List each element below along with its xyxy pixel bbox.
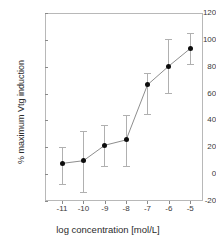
y-tick-label: 0 (192, 170, 216, 178)
x-axis-title: log concentration [mol/L] (0, 224, 216, 235)
x-tick-mark (105, 201, 106, 204)
x-tick-label: -11 (51, 205, 73, 213)
y-tick-label: 60 (192, 90, 216, 98)
x-tick-label: -7 (136, 205, 158, 213)
y-tick-label: 40 (192, 116, 216, 124)
x-tick-mark (190, 201, 191, 204)
x-tick-mark (83, 201, 84, 204)
x-tick-label: -8 (115, 205, 137, 213)
x-tick-label: -9 (94, 205, 116, 213)
y-tick-mark (45, 40, 48, 41)
chart-figure: % maximum Vtg induction 120100806040200-… (0, 0, 216, 251)
x-tick-mark (126, 201, 127, 204)
y-tick-label: 80 (192, 63, 216, 71)
y-tick-label: 20 (192, 143, 216, 151)
y-tick-mark (45, 201, 48, 202)
x-tick-label: -5 (179, 205, 201, 213)
y-tick-mark (45, 147, 48, 148)
y-tick-label: -20 (192, 197, 216, 205)
y-tick-mark (45, 174, 48, 175)
plot-area-frame (45, 13, 203, 201)
y-axis: % maximum Vtg induction (0, 0, 45, 251)
x-tick-mark (147, 201, 148, 204)
y-tick-mark (45, 13, 48, 14)
y-tick-label: 120 (192, 9, 216, 17)
x-tick-label: -6 (158, 205, 180, 213)
x-tick-label: -10 (72, 205, 94, 213)
y-tick-mark (45, 67, 48, 68)
x-tick-mark (62, 201, 63, 204)
x-tick-mark (169, 201, 170, 204)
y-tick-label: 100 (192, 36, 216, 44)
y-tick-mark (45, 94, 48, 95)
y-axis-title: % maximum Vtg induction (16, 37, 26, 187)
y-tick-mark (45, 120, 48, 121)
figure-caption (0, 243, 216, 251)
